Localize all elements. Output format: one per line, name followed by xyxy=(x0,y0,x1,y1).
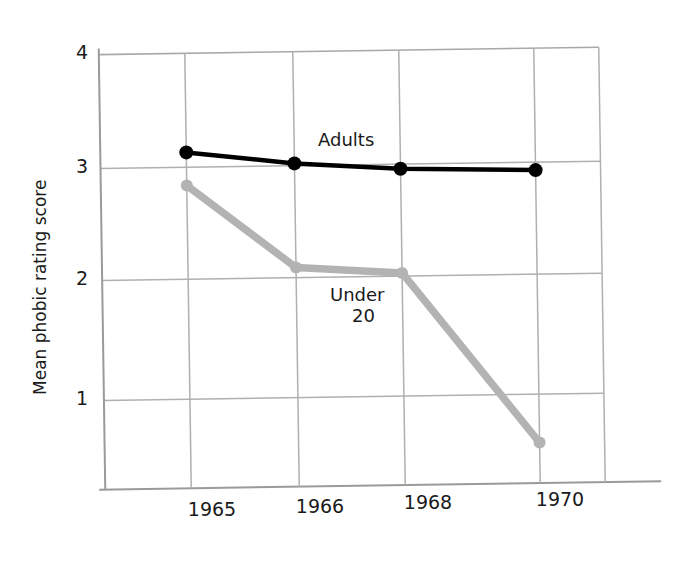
data-point xyxy=(290,262,302,274)
y-tick-label-1: 1 xyxy=(76,387,88,409)
line-chart-svg: 4 3 2 1 1965 1966 1968 1970 Mean phobic … xyxy=(0,0,686,568)
series-label-20: 20 xyxy=(352,305,375,326)
series-label-adults: Adults xyxy=(318,129,374,150)
data-point xyxy=(179,145,193,159)
data-point xyxy=(287,156,301,170)
y-tick-label-2: 2 xyxy=(76,267,88,289)
data-point xyxy=(396,267,408,279)
series-label-under: Under xyxy=(330,284,385,305)
data-point xyxy=(534,437,546,449)
data-point xyxy=(181,180,193,192)
x-tick-label-1966: 1966 xyxy=(296,495,344,517)
data-point xyxy=(529,163,543,177)
y-axis-title: Mean phobic rating score xyxy=(30,180,50,395)
chart-figure: 4 3 2 1 1965 1966 1968 1970 Mean phobic … xyxy=(0,0,686,568)
y-tick-label-4: 4 xyxy=(76,41,88,63)
y-tick-label-3: 3 xyxy=(76,155,88,177)
data-point xyxy=(394,162,408,176)
x-tick-label-1968: 1968 xyxy=(404,491,452,513)
x-tick-label-1970: 1970 xyxy=(536,488,584,510)
x-tick-label-1965: 1965 xyxy=(188,498,236,520)
